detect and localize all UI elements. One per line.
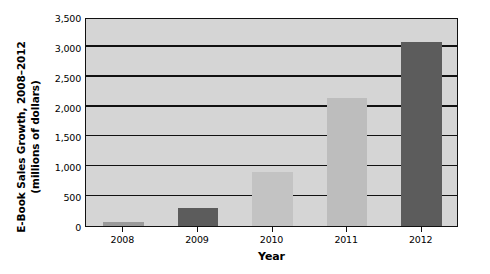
plot-area [85, 18, 458, 227]
x-axis-tick-mark [272, 227, 273, 232]
x-axis-tick-mark [421, 227, 422, 232]
y-axis-tick-label: 3,500 [52, 13, 81, 24]
y-axis-tick-label: 500 [52, 192, 81, 203]
x-axis-tick-marks [85, 227, 458, 233]
x-axis-tick-labels: 20082009201020112012 [85, 234, 458, 248]
y-axis-title-line-1: E-Book Sales Growth, 2008–2012 [15, 41, 29, 232]
y-axis-tick-label: 3,000 [52, 42, 81, 53]
y-axis-tick-labels: 05001,0001,5002,0002,5003,0003,500 [52, 18, 81, 227]
y-axis-tick-label: 2,000 [52, 102, 81, 113]
bar-2009 [178, 208, 219, 226]
x-axis-tick-mark [346, 227, 347, 232]
x-axis-title: Year [85, 250, 458, 263]
x-axis-tick-label: 2009 [185, 234, 208, 245]
x-axis-tick-label: 2011 [334, 234, 357, 245]
x-axis-tick-label: 2012 [409, 234, 432, 245]
plot-inner [86, 19, 457, 226]
y-axis-tick-label: 0 [52, 222, 81, 233]
y-axis-tick-label: 1,000 [52, 162, 81, 173]
ebook-sales-bar-chart: E-Book Sales Growth, 2008–2012 (millions… [0, 0, 490, 274]
bar-2011 [327, 98, 368, 226]
bar-2012 [401, 42, 442, 226]
x-axis-tick-label: 2008 [111, 234, 134, 245]
y-axis-tick-label: 1,500 [52, 132, 81, 143]
x-axis-tick-label: 2010 [260, 234, 283, 245]
bar-2010 [252, 172, 293, 226]
y-axis-title: E-Book Sales Growth, 2008–2012 (millions… [0, 0, 56, 274]
y-axis-tick-label: 2,500 [52, 72, 81, 83]
bar-2008 [103, 222, 144, 226]
y-axis-title-line-2: (millions of dollars) [28, 41, 42, 232]
x-axis-tick-mark [122, 227, 123, 232]
x-axis-tick-mark [197, 227, 198, 232]
